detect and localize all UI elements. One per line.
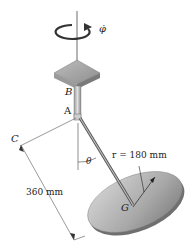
angular-velocity-label: φ̇ — [99, 24, 106, 34]
label-a: A — [64, 106, 71, 116]
rotation-arrow-icon — [56, 23, 92, 39]
label-b: B — [65, 87, 72, 97]
support-block — [54, 60, 100, 89]
label-theta: θ — [86, 157, 91, 166]
pendulum-disk-diagram: φ̇ B A C G θ r = 180 mm 360 mm — [0, 0, 191, 249]
label-g: G — [121, 203, 129, 213]
extension-line-ac — [20, 118, 76, 146]
diagram-drawing — [0, 0, 191, 249]
length-dimension: 360 mm — [26, 188, 63, 197]
vertical-shaft — [74, 86, 81, 118]
radius-dimension: r = 180 mm — [112, 151, 167, 160]
disk — [79, 159, 191, 248]
label-c: C — [11, 134, 19, 144]
